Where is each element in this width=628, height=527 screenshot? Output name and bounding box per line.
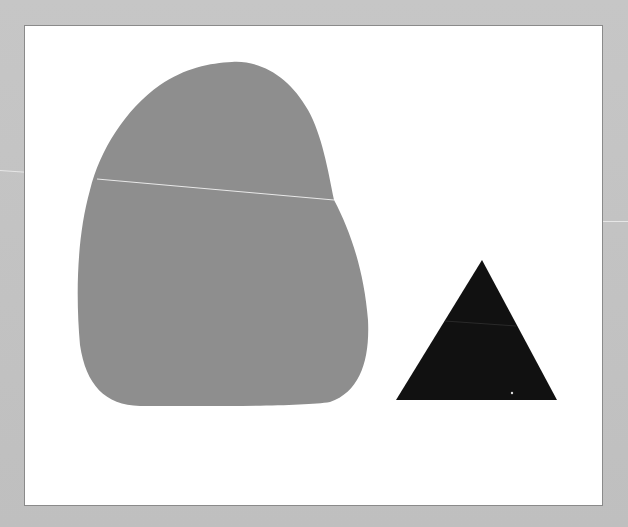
speck — [511, 392, 513, 394]
shapes-canvas — [0, 0, 628, 527]
grey-blob — [78, 62, 369, 406]
black-triangle — [396, 260, 557, 400]
